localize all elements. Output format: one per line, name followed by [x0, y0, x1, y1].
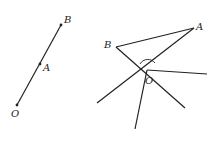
label-B-left: B	[63, 14, 71, 25]
ray-O-right	[147, 70, 207, 74]
label-O-right: O	[145, 75, 153, 86]
point-B-left	[60, 24, 63, 27]
label-O-left: O	[11, 108, 19, 119]
point-O-left	[16, 104, 19, 107]
label-A-right: A	[195, 21, 203, 32]
geometry-diagram: O A B B A O	[0, 0, 216, 143]
left-figure: O A B	[11, 14, 71, 119]
ray-OB	[17, 25, 61, 105]
right-figure: B A O	[97, 21, 207, 129]
label-B-right: B	[103, 39, 111, 50]
point-A-left	[39, 63, 42, 66]
label-A-left: A	[42, 62, 50, 73]
